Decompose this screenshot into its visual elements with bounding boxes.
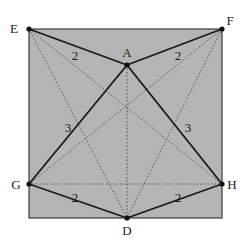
- point-h-label: H: [227, 177, 236, 192]
- length-label-af: 2: [175, 48, 182, 63]
- point-f-label: F: [226, 13, 233, 28]
- point-g-dot: [26, 181, 31, 186]
- length-label-ea: 2: [72, 48, 79, 63]
- length-label-ah: 3: [185, 120, 192, 135]
- point-g-label: G: [11, 177, 20, 192]
- point-h-dot: [219, 181, 224, 186]
- point-e-label: E: [10, 21, 18, 36]
- point-d-dot: [124, 215, 129, 220]
- point-e-dot: [26, 26, 31, 31]
- point-a-label: A: [122, 45, 132, 60]
- length-label-gd: 2: [72, 190, 79, 205]
- diagram-canvas: EFAGHD 223322: [0, 0, 245, 246]
- point-a-dot: [124, 62, 129, 67]
- point-d-label: D: [122, 223, 131, 238]
- length-label-dh: 2: [175, 190, 182, 205]
- geometry-diagram: EFAGHD 223322: [0, 0, 245, 246]
- length-label-ag: 3: [65, 120, 72, 135]
- point-f-dot: [219, 26, 224, 31]
